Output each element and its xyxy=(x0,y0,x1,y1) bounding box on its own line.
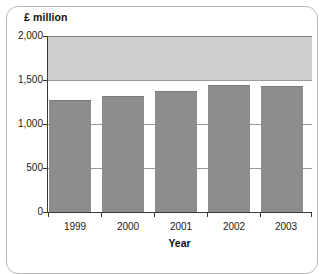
x-axis-title: Year xyxy=(47,237,312,249)
y-axis-labels: 2,000 1,500 1,000 500 0 xyxy=(0,0,43,256)
bar-2001[interactable] xyxy=(155,91,197,212)
x-tick-mark-3 xyxy=(207,212,208,217)
x-tick-label-2002: 2002 xyxy=(208,221,260,232)
x-tick-label-2000: 2000 xyxy=(102,221,154,232)
x-tick-label-2001: 2001 xyxy=(155,221,207,232)
y-tick-label-500: 500 xyxy=(26,162,43,173)
y-tick-label-2000: 2,000 xyxy=(18,30,43,41)
y-tick-mark-1000 xyxy=(43,124,47,125)
x-tick-label-2003: 2003 xyxy=(260,221,312,232)
bar-1999[interactable] xyxy=(49,100,91,212)
x-axis-line xyxy=(47,212,312,213)
y-tick-mark-1500 xyxy=(43,80,47,81)
bar-2003[interactable] xyxy=(261,86,303,212)
y-tick-mark-0 xyxy=(43,212,47,213)
y-tick-mark-500 xyxy=(43,168,47,169)
y-tick-label-1000: 1,000 xyxy=(18,118,43,129)
shaded-band-1500-2000 xyxy=(47,36,312,80)
bar-2002[interactable] xyxy=(208,85,250,212)
x-tick-mark-5 xyxy=(311,212,312,217)
x-tick-label-1999: 1999 xyxy=(49,221,101,232)
y-tick-label-1500: 1,500 xyxy=(18,74,43,85)
x-tick-mark-4 xyxy=(260,212,261,217)
y-tick-mark-2000 xyxy=(43,36,47,37)
plot-top-border xyxy=(47,36,312,37)
x-tick-mark-1 xyxy=(101,212,102,217)
plot-area xyxy=(47,36,312,212)
y-axis-line xyxy=(47,36,48,213)
x-tick-mark-0 xyxy=(48,212,49,217)
gridline-1500 xyxy=(47,80,312,81)
x-tick-mark-2 xyxy=(154,212,155,217)
bar-2000[interactable] xyxy=(102,96,144,212)
